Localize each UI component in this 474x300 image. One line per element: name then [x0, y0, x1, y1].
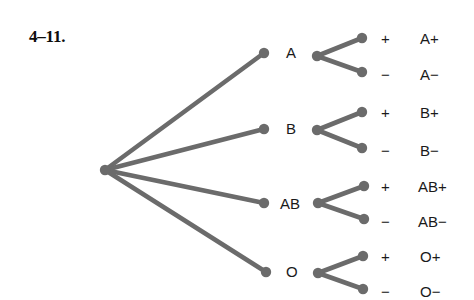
- blood-type-label-b: B: [286, 121, 296, 136]
- branch-lines-group: [105, 38, 364, 289]
- junction-node-a: [312, 51, 322, 61]
- rh-sign-label-ab-plus: +: [381, 179, 390, 194]
- branch-line-b-minus: [317, 130, 362, 148]
- blood-type-label-a: A: [286, 45, 296, 60]
- outcome-label-o-minus: O−: [420, 284, 440, 299]
- rh-node-a-plus: [357, 33, 367, 43]
- branch-line-b-plus: [317, 112, 362, 130]
- tree-diagram-figure: 4–11. A+A+−A−B+B+−B−AB+AB+−AB−O+O+−O−: [0, 0, 474, 300]
- outcome-label-ab-minus: AB−: [418, 214, 447, 229]
- junction-node-b: [312, 125, 322, 135]
- branch-line-o-plus: [318, 256, 363, 273]
- branch-line-a-minus: [317, 56, 362, 72]
- tree-root-node: [100, 165, 110, 175]
- rh-sign-label-a-plus: +: [381, 31, 390, 46]
- rh-sign-label-ab-minus: −: [381, 214, 390, 229]
- blood-type-node-a: [259, 48, 269, 58]
- rh-sign-label-o-minus: −: [381, 284, 390, 299]
- outcome-label-a-plus: A+: [420, 31, 439, 46]
- junction-node-o: [313, 268, 323, 278]
- rh-sign-label-a-minus: −: [381, 67, 390, 82]
- rh-node-o-plus: [358, 251, 368, 261]
- blood-type-label-o: O: [286, 264, 298, 279]
- rh-sign-label-b-minus: −: [381, 143, 390, 158]
- outcome-label-b-minus: B−: [420, 143, 439, 158]
- rh-node-ab-plus: [359, 181, 369, 191]
- branch-line-root-to-b: [105, 129, 264, 170]
- branch-line-root-to-a: [105, 53, 264, 170]
- blood-type-node-b: [259, 124, 269, 134]
- blood-type-node-ab: [259, 198, 269, 208]
- rh-node-a-minus: [357, 67, 367, 77]
- rh-node-b-plus: [357, 107, 367, 117]
- blood-type-label-ab: AB: [280, 196, 300, 211]
- rh-sign-label-b-plus: +: [381, 105, 390, 120]
- branch-line-ab-minus: [318, 203, 364, 219]
- branch-line-o-minus: [318, 273, 363, 289]
- outcome-label-a-minus: A−: [420, 67, 439, 82]
- branch-line-ab-plus: [318, 186, 364, 203]
- branch-line-a-plus: [317, 38, 362, 56]
- junction-node-ab: [313, 198, 323, 208]
- blood-type-node-o: [261, 267, 271, 277]
- outcome-label-o-plus: O+: [420, 249, 440, 264]
- outcome-label-ab-plus: AB+: [418, 179, 447, 194]
- rh-node-ab-minus: [359, 214, 369, 224]
- tree-diagram-svg: [0, 0, 474, 300]
- rh-sign-label-o-plus: +: [381, 249, 390, 264]
- outcome-label-b-plus: B+: [420, 105, 439, 120]
- rh-node-b-minus: [357, 143, 367, 153]
- rh-node-o-minus: [358, 284, 368, 294]
